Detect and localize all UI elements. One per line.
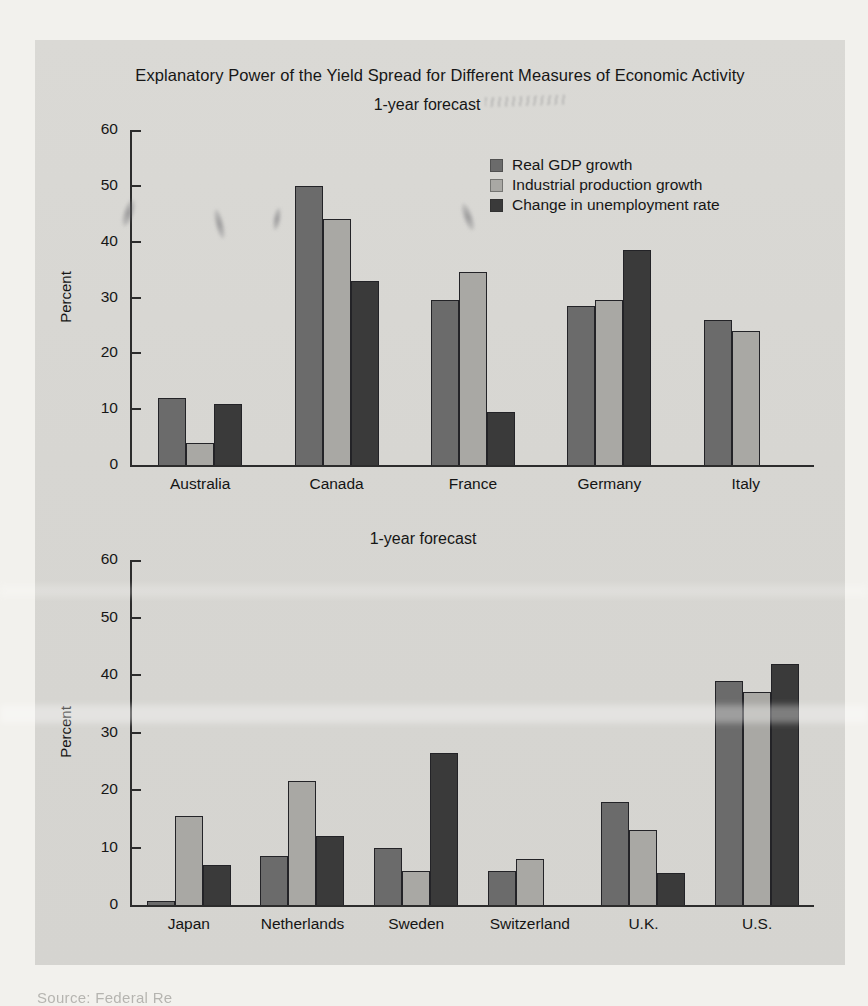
bar (374, 848, 402, 906)
bar (715, 681, 743, 905)
bar (629, 830, 657, 905)
bottom-chart-y-axis-label: Percent (57, 706, 74, 758)
bar (323, 219, 351, 465)
bar (771, 664, 799, 906)
bar (732, 331, 760, 465)
bar (704, 320, 732, 465)
bar (488, 871, 516, 906)
bar-group-us (700, 560, 814, 905)
bar-group-switzerland (473, 560, 587, 905)
bar (147, 901, 175, 905)
y-tick-label: 50 (78, 176, 118, 194)
bar (430, 753, 458, 905)
bar-group-canada (268, 130, 404, 465)
bar (623, 250, 651, 465)
y-tick-label: 0 (78, 895, 118, 913)
y-tick-label: 60 (78, 550, 118, 568)
x-category-label: U.K. (587, 915, 701, 933)
bar-group-australia (132, 130, 268, 465)
bar-group-sweden (359, 560, 473, 905)
bar (158, 398, 186, 465)
x-category-label: Japan (132, 915, 246, 933)
bar (402, 871, 430, 906)
bar (743, 692, 771, 905)
bar (186, 443, 214, 465)
bar (288, 781, 316, 905)
x-category-label: Italy (678, 475, 814, 493)
x-category-label: Switzerland (473, 915, 587, 933)
x-category-label: France (405, 475, 541, 493)
pencil-writing-smudge (485, 95, 565, 108)
bottom-chart-plot-area: 0102030405060JapanNetherlandsSwedenSwitz… (130, 560, 814, 907)
x-category-label: Germany (541, 475, 677, 493)
bar-group-netherlands (246, 560, 360, 905)
bar (595, 300, 623, 465)
bar (316, 836, 344, 905)
y-tick-label: 20 (78, 343, 118, 361)
bar (260, 856, 288, 905)
bar (601, 802, 629, 906)
y-tick-label: 30 (78, 723, 118, 741)
bar (516, 859, 544, 905)
bar-group-uk (587, 560, 701, 905)
bar-group-france (405, 130, 541, 465)
y-tick-label: 50 (78, 608, 118, 626)
bar (351, 281, 379, 465)
bar-group-italy (678, 130, 814, 465)
x-category-label: Netherlands (246, 915, 360, 933)
bar (459, 272, 487, 465)
figure-panel: Explanatory Power of the Yield Spread fo… (35, 40, 845, 965)
bar-group-germany (541, 130, 677, 465)
bar-group-japan (132, 560, 246, 905)
bar (657, 873, 685, 905)
top-chart-y-axis-label: Percent (57, 271, 74, 323)
y-tick-label: 0 (78, 455, 118, 473)
bottom-chart-subtitle: 1-year forecast (370, 530, 477, 548)
source-note-cropped: Source: Federal Re (37, 990, 172, 1006)
figure-title: Explanatory Power of the Yield Spread fo… (35, 66, 845, 85)
x-category-label: Sweden (359, 915, 473, 933)
y-tick-label: 60 (78, 120, 118, 138)
bar (214, 404, 242, 465)
y-tick-label: 40 (78, 665, 118, 683)
x-category-label: U.S. (700, 915, 814, 933)
y-tick-label: 10 (78, 399, 118, 417)
y-tick-label: 40 (78, 232, 118, 250)
bar (175, 816, 203, 905)
y-tick-label: 10 (78, 838, 118, 856)
y-tick-label: 30 (78, 288, 118, 306)
bar (203, 865, 231, 905)
top-chart-plot-area: Real GDP growth Industrial production gr… (130, 130, 814, 467)
bar (487, 412, 515, 465)
top-chart-subtitle: 1-year forecast (374, 96, 481, 114)
bar (295, 186, 323, 465)
x-category-label: Australia (132, 475, 268, 493)
x-category-label: Canada (268, 475, 404, 493)
y-tick-label: 20 (78, 780, 118, 798)
bar (431, 300, 459, 465)
bar (567, 306, 595, 465)
